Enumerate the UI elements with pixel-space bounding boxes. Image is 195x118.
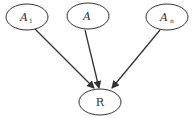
edge-a-to-r (85, 30, 99, 88)
node-a1-subscript: 1 (29, 17, 33, 24)
node-a1: A 1 (6, 4, 48, 30)
node-an-label: A (159, 11, 168, 24)
node-a: A (67, 3, 109, 29)
node-an-subscript: n (170, 17, 174, 24)
edge-an-to-r (112, 30, 160, 88)
node-r: R (79, 89, 121, 115)
node-an: A n (146, 4, 188, 30)
node-a1-label: A (19, 11, 28, 24)
edge-a1-to-r (35, 29, 94, 88)
node-r-label: R (96, 96, 105, 109)
node-a-label: A (82, 10, 91, 23)
diagram-canvas: A 1 A A n R (0, 0, 195, 118)
